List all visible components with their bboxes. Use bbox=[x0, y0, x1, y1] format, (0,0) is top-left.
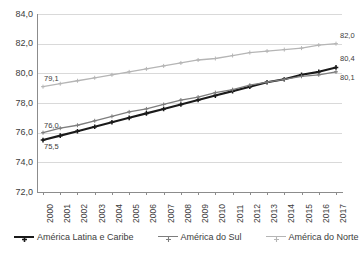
x-axis-tick-mark bbox=[284, 192, 285, 195]
y-axis-tick-label: 78,0 bbox=[0, 99, 33, 108]
x-axis-tick-mark bbox=[198, 192, 199, 195]
x-axis-tick-label: 2005 bbox=[132, 204, 141, 223]
gridline bbox=[37, 14, 342, 15]
x-axis-tick-label: 2007 bbox=[167, 204, 176, 223]
x-axis-tick-label: 2003 bbox=[98, 204, 107, 223]
x-axis-tick-label: 2014 bbox=[287, 204, 296, 223]
legend-swatch-icon bbox=[158, 232, 178, 242]
end-label-america-do-norte: 82,0 bbox=[340, 32, 355, 40]
legend-item-america-latina-e-caribe[interactable]: América Latina e Caribe bbox=[14, 232, 134, 242]
x-axis-tick-label: 2013 bbox=[270, 204, 279, 223]
y-axis-tick-label: 84,0 bbox=[0, 10, 33, 19]
x-axis-tick-label: 2010 bbox=[218, 204, 227, 223]
x-axis-line bbox=[37, 192, 343, 193]
legend-marker-plus-icon bbox=[166, 234, 171, 239]
gridline bbox=[37, 73, 342, 74]
x-axis-tick-mark bbox=[250, 192, 251, 195]
start-label-america-latina-e-caribe: 75,5 bbox=[44, 143, 59, 151]
y-axis-tick-label: 82,0 bbox=[0, 39, 33, 48]
y-axis-tick-label: 80,0 bbox=[0, 69, 33, 78]
gridline bbox=[37, 133, 342, 134]
legend-label: América do Sul bbox=[181, 232, 242, 242]
end-label-america-do-sul: 80,1 bbox=[340, 74, 355, 82]
gridline bbox=[37, 44, 342, 45]
y-axis-tick-label: 76,0 bbox=[0, 128, 33, 137]
x-axis-tick-label: 2016 bbox=[322, 204, 331, 223]
x-axis-tick-mark bbox=[302, 192, 303, 195]
chart-legend: América Latina e CaribeAmérica do SulAmé… bbox=[0, 228, 356, 246]
x-axis-tick-mark bbox=[146, 192, 147, 195]
x-axis-tick-mark bbox=[233, 192, 234, 195]
x-axis-tick-label: 2015 bbox=[305, 204, 314, 223]
x-axis-tick-mark bbox=[215, 192, 216, 195]
start-label-america-do-sul: 76,0 bbox=[44, 122, 59, 130]
x-axis-tick-mark bbox=[43, 192, 44, 195]
x-axis-tick-label: 2012 bbox=[253, 204, 262, 223]
x-axis-tick-label: 2006 bbox=[149, 204, 158, 223]
x-axis-tick-mark bbox=[319, 192, 320, 195]
x-axis-tick-label: 2009 bbox=[201, 204, 210, 223]
x-axis-tick-label: 2008 bbox=[184, 204, 193, 223]
gridline bbox=[37, 103, 342, 104]
legend-marker-plus-icon bbox=[274, 234, 279, 239]
x-axis-tick-mark bbox=[181, 192, 182, 195]
x-axis-tick-label: 2004 bbox=[115, 204, 124, 223]
x-axis-tick-mark bbox=[95, 192, 96, 195]
x-axis-tick-mark bbox=[60, 192, 61, 195]
legend-label: América do Norte bbox=[289, 232, 359, 242]
x-axis-tick-label: 2002 bbox=[80, 204, 89, 223]
x-axis-tick-mark bbox=[164, 192, 165, 195]
start-label-america-do-norte: 79,1 bbox=[44, 75, 59, 83]
x-axis-tick-mark bbox=[129, 192, 130, 195]
legend-swatch-icon bbox=[266, 232, 286, 242]
x-axis-tick-mark bbox=[336, 192, 337, 195]
legend-marker-plus-icon bbox=[22, 234, 27, 239]
legend-item-america-do-sul[interactable]: América do Sul bbox=[158, 232, 242, 242]
x-axis-tick-label: 2000 bbox=[46, 204, 55, 223]
legend-item-america-do-norte[interactable]: América do Norte bbox=[266, 232, 359, 242]
end-label-america-latina-e-caribe: 80,4 bbox=[340, 55, 355, 63]
x-axis-tick-label: 2011 bbox=[236, 205, 245, 223]
y-axis-line bbox=[37, 14, 38, 193]
x-axis-tick-label: 2017 bbox=[339, 204, 348, 223]
gridline bbox=[37, 162, 342, 163]
legend-label: América Latina e Caribe bbox=[37, 232, 134, 242]
x-axis-tick-mark bbox=[77, 192, 78, 195]
x-axis-tick-mark bbox=[267, 192, 268, 195]
y-axis-tick-label: 74,0 bbox=[0, 158, 33, 167]
y-axis-tick-label: 72,0 bbox=[0, 188, 33, 197]
plot-area bbox=[37, 14, 342, 192]
x-axis-tick-mark bbox=[112, 192, 113, 195]
legend-swatch-icon bbox=[14, 232, 34, 242]
x-axis-tick-label: 2001 bbox=[63, 204, 72, 223]
